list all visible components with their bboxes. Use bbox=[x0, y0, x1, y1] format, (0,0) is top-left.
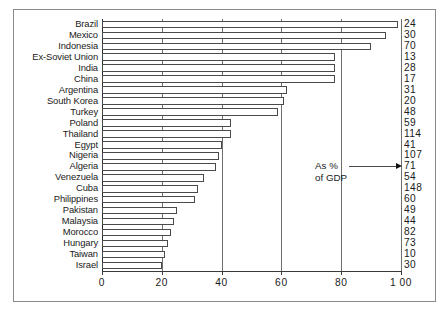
x-tick-label: 40 bbox=[215, 277, 228, 289]
bar bbox=[102, 130, 231, 138]
bar-row bbox=[102, 129, 401, 140]
bar bbox=[102, 119, 231, 127]
bar bbox=[102, 86, 287, 94]
bar bbox=[102, 152, 219, 160]
bar bbox=[102, 251, 165, 259]
category-label: Turkey bbox=[70, 107, 98, 118]
bar-row bbox=[102, 140, 401, 151]
x-tick bbox=[401, 271, 402, 275]
bar-row bbox=[102, 227, 401, 238]
bar-row bbox=[102, 30, 401, 41]
annotation-leader-line bbox=[349, 166, 399, 167]
category-label: Israel bbox=[76, 260, 98, 271]
bar-row bbox=[102, 249, 401, 260]
bar-row bbox=[102, 150, 401, 161]
bar bbox=[102, 229, 171, 237]
bar-row bbox=[102, 205, 401, 216]
bar-row bbox=[102, 52, 401, 63]
category-label: South Korea bbox=[47, 96, 98, 107]
bar-row bbox=[102, 194, 401, 205]
x-tick-label: 80 bbox=[335, 277, 348, 289]
value-label: 114 bbox=[404, 129, 434, 140]
x-tick bbox=[162, 271, 163, 275]
plot-area bbox=[102, 19, 401, 271]
bar-row bbox=[102, 172, 401, 183]
bar bbox=[102, 97, 284, 105]
bar bbox=[102, 141, 222, 149]
x-tick bbox=[281, 271, 282, 275]
value-label: 59 bbox=[404, 118, 434, 129]
x-tick-label: 60 bbox=[275, 277, 288, 289]
bar bbox=[102, 75, 335, 83]
bar bbox=[102, 196, 195, 204]
bar-row bbox=[102, 63, 401, 74]
bar-row bbox=[102, 107, 401, 118]
x-tick bbox=[341, 271, 342, 275]
x-tick bbox=[222, 271, 223, 275]
bar-row bbox=[102, 260, 401, 271]
bar-row bbox=[102, 118, 401, 129]
bar bbox=[102, 43, 371, 51]
bar-row bbox=[102, 85, 401, 96]
bar bbox=[102, 262, 162, 270]
chart-figure: BrazilMexicoIndonesiaEx-Soviet UnionIndi… bbox=[0, 0, 447, 317]
annotation-line-1: As % bbox=[315, 160, 347, 172]
bar bbox=[102, 240, 168, 248]
bar bbox=[102, 174, 204, 182]
bar bbox=[102, 21, 398, 29]
x-axis-line bbox=[102, 271, 402, 272]
bar bbox=[102, 108, 278, 116]
value-label: 30 bbox=[404, 260, 434, 271]
bar-row bbox=[102, 183, 401, 194]
bar-row bbox=[102, 41, 401, 52]
value-column: 2430701328173120485911441107715414860494… bbox=[404, 19, 434, 271]
as-percent-of-gdp-annotation: As % of GDP bbox=[315, 160, 347, 183]
bar-row bbox=[102, 216, 401, 227]
gridline bbox=[401, 19, 402, 271]
bar bbox=[102, 207, 177, 215]
bar bbox=[102, 185, 198, 193]
bar bbox=[102, 53, 335, 61]
annotation-line-2: of GDP bbox=[315, 172, 347, 184]
bar-row bbox=[102, 19, 401, 30]
x-tick-label: 20 bbox=[156, 277, 169, 289]
value-label: 48 bbox=[404, 107, 434, 118]
x-tick bbox=[102, 271, 103, 275]
value-label: 20 bbox=[404, 96, 434, 107]
bar bbox=[102, 64, 335, 72]
bar-row bbox=[102, 238, 401, 249]
bar bbox=[102, 32, 386, 40]
bar bbox=[102, 163, 216, 171]
bar-row bbox=[102, 74, 401, 85]
annotation-arrow-icon bbox=[396, 163, 402, 169]
x-tick-label: 1 00 bbox=[390, 277, 412, 289]
bar-row bbox=[102, 96, 401, 107]
x-tick-label: 0 bbox=[99, 277, 105, 289]
category-label: Thailand bbox=[63, 129, 98, 140]
category-axis: BrazilMexicoIndonesiaEx-Soviet UnionIndi… bbox=[14, 19, 98, 271]
category-label: Poland bbox=[69, 118, 98, 129]
bar bbox=[102, 218, 174, 226]
